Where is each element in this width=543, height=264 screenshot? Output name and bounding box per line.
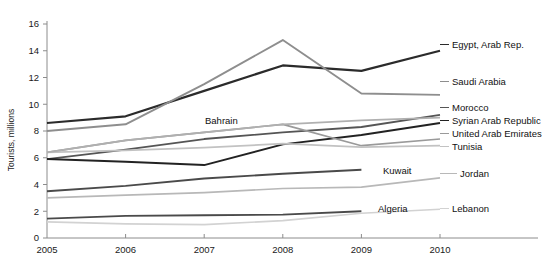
series-label: Kuwait bbox=[383, 165, 412, 176]
series-leader-lines-group bbox=[440, 45, 457, 209]
series-label: Egypt, Arab Rep. bbox=[452, 39, 524, 50]
series-label: Saudi Arabia bbox=[452, 76, 507, 87]
x-tick-label: 2006 bbox=[115, 244, 136, 255]
x-tick-label: 2005 bbox=[36, 244, 57, 255]
x-tick-label: 2007 bbox=[194, 244, 215, 255]
y-tick-label: 8 bbox=[34, 125, 39, 136]
x-tick-label: 2010 bbox=[429, 244, 450, 255]
y-tick-label: 16 bbox=[28, 18, 39, 29]
x-tick-label: 2009 bbox=[351, 244, 372, 255]
series-label: United Arab Emirates bbox=[452, 128, 542, 139]
chart-svg: Tourists, millions 0246810121416 2005200… bbox=[0, 0, 543, 264]
y-tick-label: 14 bbox=[28, 45, 39, 56]
series-lines-group bbox=[47, 40, 440, 225]
y-axis-title: Tourists, millions bbox=[6, 109, 16, 171]
series-line bbox=[47, 144, 440, 153]
y-tick-label: 2 bbox=[34, 206, 39, 217]
series-line bbox=[47, 115, 440, 159]
y-tick-label: 4 bbox=[34, 179, 39, 190]
series-label: Tunisia bbox=[452, 141, 483, 152]
series-label: Algeria bbox=[378, 203, 408, 214]
x-tick-label: 2008 bbox=[272, 244, 293, 255]
tourism-line-chart: Tourists, millions 0246810121416 2005200… bbox=[0, 0, 543, 264]
series-label: Bahrain bbox=[205, 115, 238, 126]
y-axis-ticks: 0246810121416 bbox=[28, 18, 47, 243]
series-label: Lebanon bbox=[452, 203, 489, 214]
series-label: Jordan bbox=[460, 168, 489, 179]
y-tick-label: 6 bbox=[34, 152, 39, 163]
x-axis-ticks: 200520062007200820092010 bbox=[36, 234, 450, 255]
y-tick-label: 10 bbox=[28, 99, 39, 110]
y-tick-label: 0 bbox=[34, 232, 39, 243]
y-tick-label: 12 bbox=[28, 72, 39, 83]
series-label: Morocco bbox=[452, 102, 488, 113]
series-label: Syrian Arab Republic bbox=[452, 115, 541, 126]
